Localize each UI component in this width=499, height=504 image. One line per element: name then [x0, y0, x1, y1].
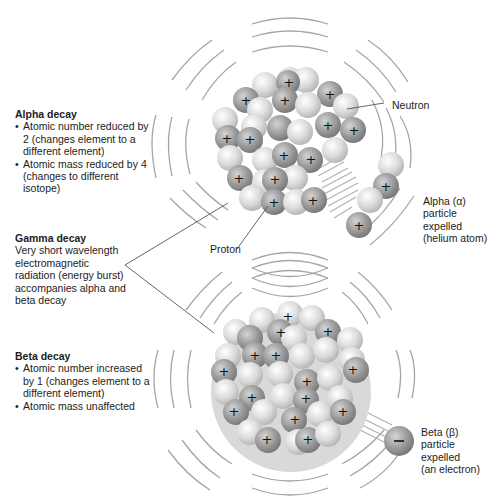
svg-text:+: + [308, 193, 319, 208]
alpha-particle: + + [346, 152, 404, 238]
beta-particle-label-line-3: expelled [421, 451, 480, 463]
alpha-particle-label-line-4: (helium atom) [423, 232, 487, 244]
svg-text:+: + [301, 391, 312, 406]
gamma-decay-description: Very short wavelength electromagnetic ra… [15, 244, 127, 306]
svg-text:+: + [250, 348, 261, 363]
svg-text:+: + [276, 325, 287, 340]
svg-text:+: + [279, 148, 290, 163]
gamma-wave [252, 253, 328, 297]
svg-text:+: + [284, 75, 295, 90]
svg-text:+: + [338, 404, 349, 419]
beta-bullet-2: Atomic mass unaffected [15, 400, 155, 412]
beta-decay-title: Beta decay [15, 350, 155, 362]
neutron-callout: Neutron [392, 99, 429, 111]
beta-particle [384, 426, 414, 456]
svg-text:+: + [349, 123, 360, 138]
alpha-decay-bullets: Atomic number reduced by 2 (changes elem… [15, 120, 155, 194]
gamma-decay-title: Gamma decay [15, 232, 127, 244]
svg-text:+: + [247, 390, 258, 405]
svg-text:+: + [323, 324, 334, 339]
beta-bullet-1: Atomic number increased by 1 (changes el… [15, 362, 155, 399]
svg-text:+: + [262, 432, 273, 447]
beta-decay-bullets: Atomic number increased by 1 (changes el… [15, 362, 155, 412]
svg-text:+: + [245, 132, 256, 147]
svg-text:+: + [381, 179, 392, 194]
svg-text:+: + [241, 93, 252, 108]
alpha-bullet-1: Atomic number reduced by 2 (changes elem… [15, 120, 155, 157]
alpha-particle-label-line-3: expelled [423, 220, 487, 232]
svg-text:+: + [280, 93, 291, 108]
beta-particle-label-line-4: (an electron) [421, 463, 480, 475]
beta-decay-label: Beta decay Atomic number increased by 1 … [15, 350, 155, 412]
proton-callout: Proton [210, 243, 241, 255]
svg-text:+: + [229, 404, 240, 419]
alpha-particle-label-line-2: particle [423, 207, 487, 219]
svg-text:+: + [348, 362, 359, 377]
alpha-particle-label: Alpha (α) particle expelled (helium atom… [423, 195, 487, 245]
svg-text:+: + [219, 364, 230, 379]
svg-text:+: + [234, 171, 245, 186]
svg-text:+: + [271, 348, 282, 363]
beta-particle-label-line-1: Beta (β) [421, 426, 480, 438]
svg-text:+: + [269, 195, 280, 210]
svg-text:+: + [354, 218, 365, 233]
beta-particle-label-line-2: particle [421, 438, 480, 450]
bottom-nucleus [211, 301, 371, 472]
beta-particle-label: Beta (β) particle expelled (an electron) [421, 426, 480, 476]
svg-text:+: + [302, 374, 313, 389]
svg-text:+: + [270, 172, 281, 187]
gamma-decay-label: Gamma decay Very short wavelength electr… [15, 232, 127, 306]
alpha-bullet-2: Atomic mass reduced by 4 (changes to dif… [15, 158, 155, 195]
svg-text:+: + [303, 432, 314, 447]
alpha-decay-title: Alpha decay [15, 108, 155, 120]
alpha-particle-label-line-1: Alpha (α) [423, 195, 487, 207]
svg-text:+: + [283, 309, 294, 324]
alpha-decay-label: Alpha decay Atomic number reduced by 2 (… [15, 108, 155, 195]
svg-text:+: + [323, 118, 334, 133]
svg-text:+: + [306, 152, 317, 167]
svg-text:+: + [290, 412, 301, 427]
svg-text:+: + [325, 87, 336, 102]
svg-text:+: + [222, 131, 233, 146]
